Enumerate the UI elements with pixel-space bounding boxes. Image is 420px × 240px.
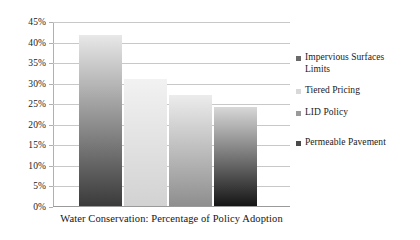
y-axis-tick-label: 25%	[28, 99, 46, 109]
legend-item[interactable]: Impervious Surfaces Limits	[296, 52, 384, 75]
bar	[124, 79, 167, 206]
y-axis-tick-label: 0%	[33, 202, 46, 212]
chart-caption: Water Conservation: Percentage of Policy…	[53, 212, 290, 225]
bar	[79, 35, 122, 206]
legend-swatch-icon	[296, 56, 301, 61]
bar	[214, 107, 257, 206]
y-axis-tick-label: 5%	[33, 181, 46, 191]
x-axis-line	[53, 206, 290, 207]
legend-item[interactable]: LID Policy	[296, 107, 348, 119]
legend-swatch-icon	[296, 141, 301, 146]
y-axis: 45%40%35%30%25%20%15%10%5%0%	[0, 0, 52, 240]
legend-item[interactable]: Tiered Pricing	[296, 85, 360, 97]
legend-swatch-icon	[296, 111, 301, 116]
y-axis-tick-label: 40%	[28, 38, 46, 48]
legend-label: LID Policy	[305, 107, 348, 119]
y-axis-tick-label: 20%	[28, 120, 46, 130]
y-axis-tick	[49, 207, 53, 208]
bars	[53, 22, 290, 207]
legend-label: Permeable Pavement	[305, 137, 386, 149]
y-axis-tick-label: 35%	[28, 58, 46, 68]
plot-area	[53, 22, 290, 207]
y-axis-tick-label: 10%	[28, 161, 46, 171]
legend-label: Impervious Surfaces Limits	[305, 52, 384, 75]
bar-chart: 45%40%35%30%25%20%15%10%5%0% Impervious …	[0, 0, 420, 240]
y-axis-tick-label: 15%	[28, 140, 46, 150]
y-axis-tick-label: 45%	[28, 17, 46, 27]
legend-swatch-icon	[296, 89, 301, 94]
bar	[169, 95, 212, 206]
y-axis-tick-label: 30%	[28, 79, 46, 89]
legend-label: Tiered Pricing	[305, 85, 360, 97]
legend-item[interactable]: Permeable Pavement	[296, 137, 386, 149]
